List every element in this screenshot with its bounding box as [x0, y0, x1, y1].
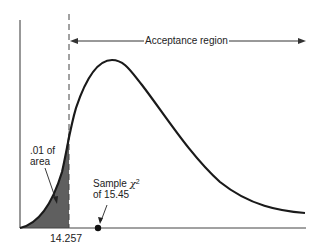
chi-superscript: 2	[136, 178, 140, 185]
acceptance-region-label: Acceptance region	[144, 35, 229, 46]
critical-value-tick-label: 14.257	[50, 233, 82, 244]
sample-statistic-dot	[95, 225, 101, 231]
rejection-area-label: .01 of area	[30, 145, 55, 167]
area-label-line-1: .01 of	[30, 145, 55, 156]
sample-label-line-1: Sample χ2	[93, 178, 140, 189]
rejection-region-shading	[20, 128, 69, 228]
sample-label-line-2: of 15.45	[93, 189, 140, 200]
arrow-right-head-icon	[298, 38, 306, 44]
area-label-line-2: area	[30, 156, 55, 167]
arrow-left-head-icon	[70, 38, 78, 44]
sample-pointer-head-icon	[98, 217, 103, 224]
sample-statistic-label: Sample χ2 of 15.45	[93, 178, 140, 200]
area-pointer-line	[45, 168, 56, 200]
